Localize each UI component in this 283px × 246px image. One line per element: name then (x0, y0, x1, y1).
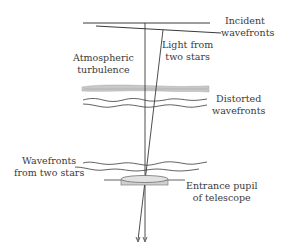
label-distorted-line1: Distorted (212, 93, 265, 105)
label-incident-wavefronts: Incident wavefronts (221, 15, 274, 39)
telescope-lens (121, 176, 168, 183)
label-turbulence-line1: Atmospheric (73, 52, 134, 64)
turbulence-band (82, 85, 209, 92)
label-two-stars-line2: from two stars (14, 167, 84, 179)
label-two-stars-line1: Wavefronts (14, 155, 84, 167)
label-pupil-line2: of telescope (186, 192, 258, 204)
label-incident-line2: wavefronts (221, 27, 274, 39)
incident-wavefront-2 (96, 26, 221, 33)
label-wavefronts-from-two-stars: Wavefronts from two stars (14, 155, 84, 179)
light-ray-slanted (138, 30, 163, 240)
label-light-line1: Light from (162, 39, 213, 51)
label-atmospheric-turbulence: Atmospheric turbulence (73, 52, 134, 76)
label-light-from-two-stars: Light from two stars (162, 39, 213, 63)
label-distorted-wavefronts: Distorted wavefronts (212, 93, 265, 117)
telescope-turbulence-diagram: Incident wavefronts Light from two stars… (0, 0, 283, 246)
star-wavefront-2 (75, 167, 199, 171)
label-distorted-line2: wavefronts (212, 105, 265, 117)
label-turbulence-line2: turbulence (73, 64, 134, 76)
label-entrance-pupil: Entrance pupil of telescope (186, 180, 258, 204)
label-pupil-line1: Entrance pupil (186, 180, 258, 192)
label-light-line2: two stars (162, 51, 213, 63)
label-incident-line1: Incident (221, 15, 274, 27)
